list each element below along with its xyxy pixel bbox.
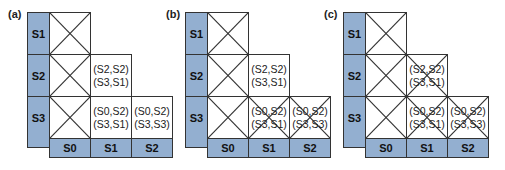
state-pair: (S3,S1) [409,76,445,89]
state-pair: (S3,S1) [93,118,129,131]
cell-s1-s0 [207,12,249,55]
row-label-s1: S1 [185,12,208,55]
col-label-s0: S0 [49,138,91,158]
col-label-s1: S1 [90,138,132,158]
state-pair: (S0,S2) [450,105,486,118]
cell-s2-s0 [365,54,407,97]
cell-s3-s1: (S0,S2)(S3,S1) [248,96,290,139]
cell-s3-s0 [49,96,91,139]
cross-mark-icon [208,55,248,96]
panel-a: (a)S1S2S3S0S1S2(S2,S2)(S3,S1)(S0,S2)(S3,… [8,0,168,170]
state-pair: (S3,S3) [134,118,170,131]
row-label-tail [185,138,208,148]
cell-s1-s0 [365,12,407,55]
cross-mark-icon [366,55,406,96]
panel-label: (b) [166,8,180,20]
panel-b: (b)S1S2S3S0S1S2(S2,S2)(S3,S1)(S0,S2)(S3,… [166,0,326,170]
cell-s3-s1: (S0,S2)(S3,S1) [90,96,132,139]
cross-mark-icon [366,13,406,54]
state-pair: (S3,S1) [409,118,445,131]
cell-s3-s1: (S0,S2)(S3,S1) [406,96,448,139]
state-pair: (S3,S1) [251,118,287,131]
cell-s2-s1: (S2,S2)(S3,S1) [90,54,132,97]
col-label-s0: S0 [207,138,249,158]
state-pair: (S3,S3) [450,118,486,131]
state-pair: (S2,S2) [93,63,129,76]
row-label-s2: S2 [185,54,208,97]
cell-s3-s2: (S0,S2)(S3,S3) [447,96,489,139]
row-label-s1: S1 [27,12,50,55]
state-pair: (S0,S2) [409,105,445,118]
row-label-s1: S1 [343,12,366,55]
cell-s3-s0 [365,96,407,139]
state-pair: (S2,S2) [251,63,287,76]
cross-mark-icon [50,97,90,138]
cell-s3-s0 [207,96,249,139]
cross-mark-icon [208,13,248,54]
cell-s2-s0 [207,54,249,97]
cell-s2-s0 [49,54,91,97]
state-pair: (S0,S2) [292,105,328,118]
state-pair: (S0,S2) [93,105,129,118]
cross-mark-icon [50,13,90,54]
panel-c: (c)S1S2S3S0S1S2(S2,S2)(S3,S1)(S0,S2)(S3,… [324,0,484,170]
cell-s1-s0 [49,12,91,55]
state-pair: (S3,S3) [292,118,328,131]
row-label-s2: S2 [27,54,50,97]
col-label-s2: S2 [447,138,489,158]
row-label-s3: S3 [343,96,366,139]
col-label-s0: S0 [365,138,407,158]
cross-mark-icon [208,97,248,138]
state-pair: (S0,S2) [251,105,287,118]
panel-label: (a) [8,8,21,20]
cross-mark-icon [366,97,406,138]
state-pair: (S3,S1) [251,76,287,89]
row-label-tail [27,138,50,148]
panel-label: (c) [324,8,337,20]
cell-s2-s1: (S2,S2)(S3,S1) [406,54,448,97]
state-pair: (S0,S2) [134,105,170,118]
row-label-s3: S3 [27,96,50,139]
col-label-s1: S1 [406,138,448,158]
row-label-s3: S3 [185,96,208,139]
col-label-s1: S1 [248,138,290,158]
cell-s2-s1: (S2,S2)(S3,S1) [248,54,290,97]
state-pair: (S2,S2) [409,63,445,76]
row-label-tail [343,138,366,148]
cross-mark-icon [50,55,90,96]
state-pair: (S3,S1) [93,76,129,89]
row-label-s2: S2 [343,54,366,97]
